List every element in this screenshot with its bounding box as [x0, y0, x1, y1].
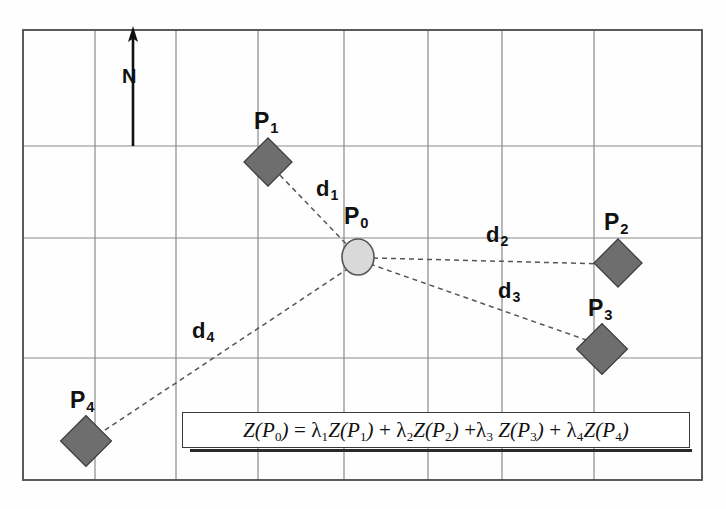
label-d4: d4 — [192, 320, 213, 342]
label-d1: d1 — [316, 178, 337, 200]
label-d3: d3 — [498, 280, 519, 302]
formula-box-shadow — [190, 449, 692, 452]
label-p3: P3 — [588, 297, 612, 320]
marker-p0[interactable] — [342, 239, 374, 275]
label-p0: P0 — [344, 205, 368, 228]
formula-text: Z(P0) = λ1Z(P1) + λ2Z(P2) +λ3 Z(P3) + λ4… — [243, 418, 629, 443]
label-north: N — [122, 66, 136, 86]
formula-box: Z(P0) = λ1Z(P1) + λ2Z(P2) +λ3 Z(P3) + λ4… — [182, 412, 690, 448]
label-p1: P1 — [254, 110, 278, 133]
label-d2: d2 — [486, 224, 507, 246]
label-p2: P2 — [604, 211, 628, 234]
label-p4: P4 — [70, 389, 94, 412]
